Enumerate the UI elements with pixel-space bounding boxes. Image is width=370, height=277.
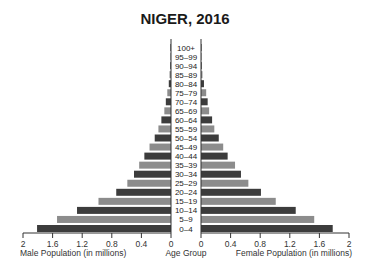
female-bar	[201, 198, 276, 205]
female-bar	[201, 162, 235, 169]
female-bar	[201, 107, 209, 114]
age-group-label: 35–39	[175, 161, 198, 170]
female-bar	[201, 98, 208, 105]
age-group-label: 40–44	[175, 152, 198, 161]
age-group-label: 65–69	[175, 107, 198, 116]
male-bar	[161, 116, 171, 123]
age-group-label: 85–89	[175, 71, 198, 80]
male-bar	[57, 216, 171, 223]
age-group-label: 90–94	[175, 62, 198, 71]
population-pyramid-chart: 100+95–9990–9485–8980–8475–7970–7465–696…	[0, 0, 370, 277]
male-bar	[139, 162, 171, 169]
female-bar	[201, 135, 219, 142]
age-group-label: 25–29	[175, 179, 198, 188]
age-group-label: 70–74	[175, 98, 198, 107]
age-group-label: 55–59	[175, 125, 198, 134]
age-group-label: 30–34	[175, 170, 198, 179]
male-bar	[134, 171, 171, 178]
age-group-label: 10–14	[175, 206, 198, 215]
age-group-label: 20–24	[175, 188, 198, 197]
female-bar	[201, 189, 261, 196]
female-bar	[201, 171, 241, 178]
age-group-label: 75–79	[175, 89, 198, 98]
female-bar	[201, 207, 296, 214]
male-bar	[164, 107, 171, 114]
male-bar	[144, 153, 171, 160]
female-bar	[201, 116, 212, 123]
age-group-label: 80–84	[175, 80, 198, 89]
male-bar	[127, 180, 171, 187]
male-bar	[167, 89, 171, 96]
male-bar	[116, 189, 171, 196]
age-group-axis-label: Age Group	[165, 248, 206, 258]
age-group-label: 15–19	[175, 197, 198, 206]
age-group-label: 45–49	[175, 143, 198, 152]
male-bar	[150, 144, 171, 151]
age-group-label: 95–99	[175, 53, 198, 62]
age-group-label: 100+	[177, 44, 195, 53]
female-bar	[201, 144, 223, 151]
female-bar	[201, 89, 206, 96]
female-bar	[201, 216, 314, 223]
male-axis-tick-label: 0.4	[135, 239, 147, 249]
female-bar	[201, 125, 214, 132]
age-group-label: 50–54	[175, 134, 198, 143]
male-bar	[98, 198, 171, 205]
age-group-label: 60–64	[175, 116, 198, 125]
age-group-label: 5–9	[179, 215, 193, 224]
age-group-label: 0–4	[179, 225, 193, 234]
male-bar	[158, 125, 171, 132]
female-bar	[201, 153, 228, 160]
male-bar	[37, 225, 171, 232]
female-bar	[201, 180, 248, 187]
male-bar	[166, 98, 171, 105]
female-bar	[201, 225, 333, 232]
male-axis-label: Male Population (in millions)	[20, 248, 126, 258]
female-axis-label: Female Population (in millions)	[236, 248, 352, 258]
male-bar	[77, 207, 171, 214]
male-bar	[155, 135, 171, 142]
